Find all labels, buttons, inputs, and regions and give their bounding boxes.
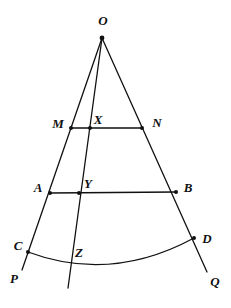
arc-cd-group [28,238,194,265]
vertex-dot-c [26,250,30,254]
point-label-z: Z [75,246,83,259]
point-label-n: N [152,116,161,129]
vertex-dot-b [174,190,178,194]
point-label-d: D [202,232,211,245]
figure-canvas [0,0,231,308]
vertex-dot-o [100,36,105,41]
vertex-dot-a [48,191,52,195]
point-label-x: X [94,113,103,126]
vertex-dot-n [140,126,144,130]
point-label-y: Y [84,177,92,190]
angle-rays [22,38,207,272]
point-label-b: B [184,181,193,194]
point-label-p: P [10,272,18,285]
vertex-dot-m [69,126,73,130]
point-label-q: Q [210,275,219,288]
vertex-dots [26,36,196,254]
vertex-dot-y [77,191,81,195]
ray-o-to-p-line [22,38,102,270]
vertex-dot-x [88,126,92,130]
cevian-o-through-z-line [68,38,102,288]
point-label-m: M [52,117,64,130]
point-label-o: O [98,14,107,27]
vertex-dot-d [192,236,196,240]
geometry-figure: O M X N A Y B C Z D P Q [0,0,231,308]
ray-o-to-q-line [102,38,207,272]
chord-ab-line [50,192,176,193]
point-label-a: A [34,181,43,194]
arc-cd-path [28,238,194,265]
cevian-line-group [68,38,102,288]
point-label-c: C [14,239,23,252]
